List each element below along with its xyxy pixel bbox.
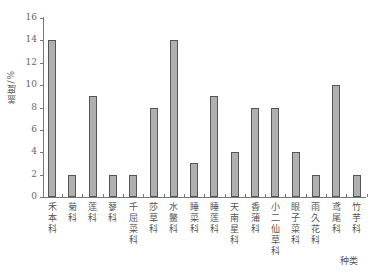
y-tick-mark xyxy=(40,130,43,131)
x-category-label: 睡莲科 xyxy=(208,202,220,235)
x-tick-mark xyxy=(184,194,185,197)
x-category-label: 莲科 xyxy=(87,202,99,224)
x-category-label: 蓼科 xyxy=(107,202,119,224)
y-tick-mark xyxy=(40,85,43,86)
y-tick-mark xyxy=(40,108,43,109)
x-category-label: 千屈菜科 xyxy=(127,202,139,246)
y-tick-mark xyxy=(40,175,43,176)
y-tick-label: 8 xyxy=(17,102,37,112)
x-tick-mark xyxy=(225,194,226,197)
bar-chart: 盖度/% 0246810121416 禾本科菊科莲科蓼科千屈菜科莎草科水鳖科睡菜… xyxy=(0,0,376,276)
bar xyxy=(292,152,300,197)
bar xyxy=(150,108,158,198)
x-category-label: 竹芋科 xyxy=(351,202,363,235)
x-category-label: 睡菜科 xyxy=(188,202,200,235)
x-category-label: 禾本科 xyxy=(46,202,58,235)
x-tick-mark xyxy=(103,194,104,197)
y-tick-mark xyxy=(40,40,43,41)
bar xyxy=(231,152,239,197)
bar xyxy=(190,163,198,197)
y-tick-mark xyxy=(40,197,43,198)
x-tick-mark xyxy=(82,194,83,197)
x-axis-line xyxy=(43,197,366,198)
x-category-label: 水鳖科 xyxy=(168,202,180,235)
x-tick-mark xyxy=(164,194,165,197)
x-tick-mark xyxy=(367,194,368,197)
y-tick-label: 14 xyxy=(17,34,37,44)
x-category-label: 雨久花科 xyxy=(310,202,322,246)
bar xyxy=(68,175,76,197)
x-tick-mark xyxy=(306,194,307,197)
y-tick-label: 10 xyxy=(17,79,37,89)
y-axis-line xyxy=(43,17,44,198)
x-tick-mark xyxy=(265,194,266,197)
bar xyxy=(251,108,259,198)
bar xyxy=(170,40,178,197)
bar xyxy=(312,175,320,197)
x-category-label: 天南星科 xyxy=(229,202,241,246)
x-category-label: 莎草科 xyxy=(148,202,160,235)
bar xyxy=(332,85,340,197)
x-category-label: 小二仙草科 xyxy=(269,202,281,257)
x-tick-mark xyxy=(245,194,246,197)
bar xyxy=(129,175,137,197)
x-tick-mark xyxy=(204,194,205,197)
bar xyxy=(353,175,361,197)
x-tick-mark xyxy=(285,194,286,197)
x-axis-label: 种类 xyxy=(340,254,358,267)
x-tick-mark xyxy=(62,194,63,197)
x-tick-mark xyxy=(123,194,124,197)
y-tick-mark xyxy=(40,152,43,153)
bar xyxy=(109,175,117,197)
x-category-label: 眼子菜科 xyxy=(290,202,302,246)
y-tick-label: 12 xyxy=(17,57,37,67)
bar xyxy=(48,40,56,197)
bar xyxy=(271,108,279,198)
y-tick-label: 16 xyxy=(17,12,37,22)
y-tick-mark xyxy=(40,63,43,64)
x-category-label: 香蒲科 xyxy=(249,202,261,235)
bar xyxy=(210,96,218,197)
y-tick-label: 4 xyxy=(17,146,37,156)
bar xyxy=(89,96,97,197)
x-tick-mark xyxy=(346,194,347,197)
x-category-label: 鸢尾科 xyxy=(330,202,342,235)
y-tick-label: 6 xyxy=(17,124,37,134)
y-axis-label: 盖度/% xyxy=(4,70,18,104)
x-category-label: 菊科 xyxy=(66,202,78,224)
y-tick-mark xyxy=(40,18,43,19)
x-tick-mark xyxy=(143,194,144,197)
x-tick-mark xyxy=(326,194,327,197)
y-tick-label: 0 xyxy=(17,191,37,201)
y-tick-label: 2 xyxy=(17,169,37,179)
